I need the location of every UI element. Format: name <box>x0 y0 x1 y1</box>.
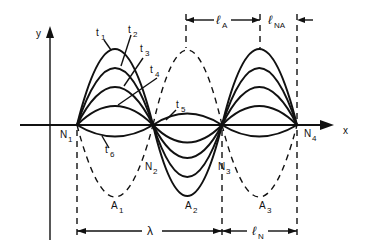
svg-text:3: 3 <box>267 206 272 215</box>
svg-text:4: 4 <box>155 70 160 79</box>
time-label-t4: t 4 <box>150 64 160 79</box>
dimension-label-la: ℓ A <box>216 13 228 30</box>
standing-wave-diagram: y x N 1 N 2 N 3 N 4 A 1 A 2 A 3 t 1 t 2 … <box>0 0 366 252</box>
svg-text:1: 1 <box>119 206 124 215</box>
svg-text:t: t <box>140 43 143 54</box>
svg-text:ℓ: ℓ <box>216 13 221 27</box>
wave-segment-3 <box>222 49 297 197</box>
wave-segment-2 <box>153 50 222 196</box>
svg-text:1: 1 <box>101 33 106 42</box>
time-label-t5: t 5 <box>176 99 186 114</box>
antinode-label-a3: A 3 <box>259 200 272 215</box>
node-label-n4: N 4 <box>304 128 317 143</box>
node-label-n3: N 3 <box>218 161 231 176</box>
time-label-t2: t 2 <box>128 24 138 39</box>
svg-text:t: t <box>128 24 131 35</box>
svg-text:t: t <box>150 64 153 75</box>
svg-text:A: A <box>111 200 118 211</box>
svg-text:t: t <box>176 99 179 110</box>
wave-segment-1 <box>77 49 153 197</box>
svg-text:2: 2 <box>153 167 158 176</box>
dimension-top <box>186 17 313 23</box>
svg-text:3: 3 <box>145 49 150 58</box>
svg-text:2: 2 <box>193 206 198 215</box>
svg-text:N: N <box>60 129 67 140</box>
dimension-label-ln: ℓ N <box>252 224 264 241</box>
svg-text:6: 6 <box>110 150 115 159</box>
x-axis-label: x <box>343 125 348 136</box>
y-axis-label: y <box>36 28 41 39</box>
y-axis <box>46 26 54 240</box>
antinode-label-a2: A 2 <box>185 200 198 215</box>
svg-text:N: N <box>258 232 264 241</box>
svg-text:3: 3 <box>226 167 231 176</box>
svg-text:4: 4 <box>312 134 317 143</box>
svg-text:N: N <box>304 128 311 139</box>
svg-text:1: 1 <box>68 135 73 144</box>
svg-text:A: A <box>259 200 266 211</box>
time-label-t6: t 6 <box>105 144 115 159</box>
svg-text:t: t <box>105 144 108 155</box>
svg-text:2: 2 <box>133 30 138 39</box>
node-label-n2: N 2 <box>145 161 158 176</box>
node-label-n1: N 1 <box>60 129 73 144</box>
svg-text:ℓ: ℓ <box>252 224 257 238</box>
dimension-label-lambda: λ <box>147 224 153 238</box>
svg-text:t: t <box>96 27 99 38</box>
svg-text:N: N <box>218 161 225 172</box>
svg-text:A: A <box>185 200 192 211</box>
time-label-t1: t 1 <box>96 27 106 42</box>
svg-text:A: A <box>222 21 228 30</box>
dimension-label-lna: ℓ NA <box>268 13 286 30</box>
dimension-bottom <box>77 228 297 234</box>
antinode-label-a1: A 1 <box>111 200 124 215</box>
svg-text:NA: NA <box>274 21 286 30</box>
time-label-t3: t 3 <box>140 43 150 58</box>
svg-text:N: N <box>145 161 152 172</box>
svg-text:ℓ: ℓ <box>268 13 273 27</box>
svg-text:5: 5 <box>181 105 186 114</box>
svg-text:λ: λ <box>147 224 153 238</box>
